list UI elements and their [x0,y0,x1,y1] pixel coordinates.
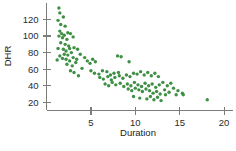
data-point [93,72,96,75]
x-axis-title: Duration [120,127,156,138]
data-point [134,86,137,89]
y-tick-label: 100 [23,30,39,41]
data-point [105,70,108,73]
x-tick-label: 20 [219,117,230,128]
data-point [135,72,138,75]
data-point [59,23,62,26]
data-point [126,82,129,85]
data-point [142,73,145,76]
data-point [148,89,151,92]
data-point [86,59,89,62]
data-point [66,53,69,56]
data-point [172,86,175,89]
data-point [149,95,152,98]
data-point [139,70,142,73]
data-point [136,83,139,86]
data-point [141,90,144,93]
y-tick-label: 60 [28,64,39,75]
data-point [76,48,79,51]
data-point [77,74,80,77]
data-point [158,83,161,86]
data-point [133,81,136,84]
data-point [64,49,67,52]
data-point [88,62,91,65]
data-point [119,55,122,58]
data-point [128,75,131,78]
data-point [83,56,86,59]
x-axis-group: 5101520 [47,107,234,128]
data-point [127,60,130,63]
data-point [155,90,158,93]
data-point [147,84,150,87]
data-point [69,69,72,72]
data-point [102,77,105,80]
data-point [94,60,97,63]
data-point [56,19,59,22]
data-point [158,92,161,95]
data-point [68,47,71,50]
data-point [63,53,66,56]
data-point [153,72,156,75]
y-tick-label: 40 [28,80,39,91]
data-point [182,93,185,96]
data-point [63,24,66,27]
data-point [71,35,74,38]
data-point [103,82,106,85]
data-points-layer [55,6,208,102]
data-point [113,76,116,79]
data-point [119,82,122,85]
data-point [130,89,133,92]
data-point [72,46,75,49]
data-point [56,47,59,50]
data-point [122,85,125,88]
data-point [159,99,162,102]
data-point [176,89,179,92]
data-point [107,84,110,87]
data-point [65,62,68,65]
data-point [157,75,160,78]
data-point [121,77,124,80]
data-point [167,91,170,94]
data-point [71,64,74,67]
y-axis-title: DHR [2,46,13,67]
scatter-plot-figure: 20406080100120 5101520 Duration DHR [0,0,236,151]
data-point [63,43,66,46]
data-point [61,36,64,39]
data-point [169,82,172,85]
x-tick-label: 5 [88,117,93,128]
data-point [117,71,120,74]
y-tick-label: 80 [28,47,39,58]
data-point [150,74,153,77]
data-point [62,15,65,18]
data-point [59,41,62,44]
y-tick-label: 120 [23,14,39,25]
data-point [138,96,141,99]
data-point [163,88,166,91]
data-point [161,81,164,84]
data-point [106,75,109,78]
data-point [70,51,73,54]
data-point [74,61,77,64]
y-tick-label: 20 [28,97,39,108]
data-point [111,81,114,84]
data-point [64,58,67,61]
data-point [125,73,128,76]
data-point [114,83,117,86]
data-point [57,6,60,9]
data-point [152,98,155,101]
data-point [129,84,132,87]
data-point [89,69,92,72]
plot-canvas: 20406080100120 5101520 Duration DHR [0,0,236,151]
data-point [61,57,64,60]
data-point [145,97,148,100]
x-axis-ticks: 5101520 [88,107,229,128]
data-point [98,76,101,79]
data-point [57,34,60,37]
data-point [75,58,78,61]
data-point [150,82,153,85]
data-point [97,72,100,75]
data-point [79,53,82,56]
data-point [127,87,130,90]
y-axis-group: 20406080100120 [23,3,51,110]
data-point [174,93,177,96]
